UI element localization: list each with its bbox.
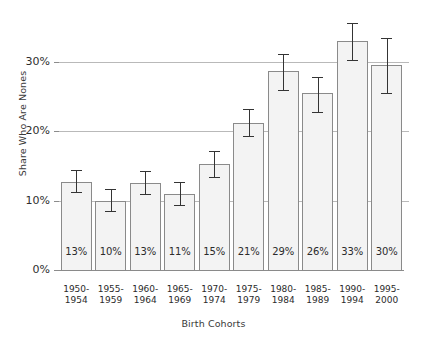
error-bar-line (387, 38, 388, 93)
y-tick-label: 30% (26, 56, 50, 67)
y-tick: 30% (6, 62, 50, 63)
error-bar-line (214, 151, 215, 177)
y-tick-mark-right (404, 201, 409, 202)
bar-value-label: 30% (371, 246, 402, 257)
y-tick-mark (54, 131, 59, 132)
bar[interactable] (371, 65, 402, 271)
error-bar-cap-lower (174, 205, 185, 206)
chart-container: Share Who Are Nones 0%10%20%30%13%1950-1… (0, 0, 427, 337)
error-bar-cap-upper (278, 54, 289, 55)
y-tick: 0% (6, 270, 50, 271)
bar[interactable] (61, 182, 92, 271)
bar-value-label: 26% (302, 246, 333, 257)
bar[interactable] (130, 183, 161, 271)
error-bar-cap-lower (71, 192, 82, 193)
error-bar-cap-upper (174, 182, 185, 183)
y-tick-mark (54, 201, 59, 202)
error-bar-cap-lower (347, 60, 358, 61)
error-bar-line (145, 171, 146, 194)
y-tick-mark (54, 62, 59, 63)
error-bar-cap-upper (105, 189, 116, 190)
x-axis-title: Birth Cohorts (0, 318, 427, 329)
bar-value-label: 29% (268, 246, 299, 257)
error-bar-cap-lower (243, 136, 254, 137)
error-bar-cap-lower (105, 211, 116, 212)
error-bar-cap-upper (312, 77, 323, 78)
y-tick-label: 20% (26, 125, 50, 136)
error-bar-cap-upper (71, 170, 82, 171)
bar-value-label: 13% (61, 246, 92, 257)
bar-value-label: 11% (164, 246, 195, 257)
bar-value-label: 33% (337, 246, 368, 257)
y-tick-label: 0% (33, 264, 50, 275)
error-bar-line (318, 77, 319, 112)
error-bar-line (249, 109, 250, 137)
y-tick-label: 10% (26, 195, 50, 206)
bar[interactable] (337, 41, 368, 271)
bar-value-label: 13% (130, 246, 161, 257)
y-tick-mark (54, 270, 59, 271)
bar-value-label: 21% (233, 246, 264, 257)
y-tick: 10% (6, 201, 50, 202)
y-tick-mark-right (404, 131, 409, 132)
error-bar-cap-lower (278, 90, 289, 91)
error-bar-line (76, 170, 77, 192)
bar[interactable] (302, 93, 333, 271)
bar-value-label: 10% (95, 246, 126, 257)
error-bar-line (283, 54, 284, 90)
error-bar-cap-upper (140, 171, 151, 172)
error-bar-cap-lower (312, 112, 323, 113)
error-bar-cap-upper (347, 23, 358, 24)
y-tick: 20% (6, 131, 50, 132)
bar-value-label: 15% (199, 246, 230, 257)
bar[interactable] (268, 71, 299, 271)
error-bar-cap-lower (209, 177, 220, 178)
error-bar-cap-upper (243, 109, 254, 110)
error-bar-line (352, 23, 353, 60)
error-bar-cap-lower (381, 93, 392, 94)
x-tick-label: 1995-2000 (365, 284, 408, 306)
error-bar-cap-upper (209, 151, 220, 152)
y-tick-mark-right (404, 62, 409, 63)
error-bar-cap-upper (381, 38, 392, 39)
error-bar-line (180, 182, 181, 205)
error-bar-cap-lower (140, 194, 151, 195)
error-bar-line (111, 189, 112, 211)
